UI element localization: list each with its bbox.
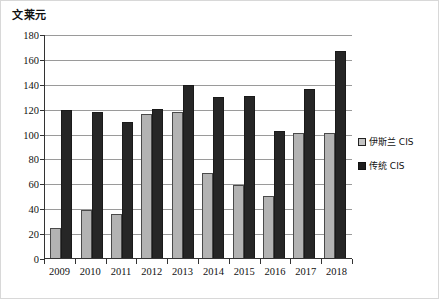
x-tick-mark (321, 259, 322, 264)
y-tick-label: 0 (34, 254, 39, 265)
x-tick-mark (136, 259, 137, 264)
x-tick-label-2016: 2016 (265, 266, 286, 277)
x-tick-label-2012: 2012 (141, 266, 162, 277)
x-tick-mark (44, 259, 45, 264)
legend-item-traditional[interactable]: 传统 CIS (358, 159, 436, 172)
y-tick-label: 100 (23, 129, 39, 140)
legend-item-islamic[interactable]: 伊斯兰 CIS (358, 135, 436, 148)
x-tick-mark (106, 259, 107, 264)
x-tick-label-2015: 2015 (234, 266, 255, 277)
x-tick-label-2010: 2010 (80, 266, 101, 277)
y-tick-label: 40 (29, 204, 40, 215)
y-tick-label: 80 (29, 154, 40, 165)
x-tick-mark (75, 259, 76, 264)
x-tick-label-2009: 2009 (49, 266, 70, 277)
plot-frame (44, 35, 352, 259)
y-tick-label: 180 (23, 30, 39, 41)
x-tick-mark (229, 259, 230, 264)
x-tick-label-2011: 2011 (111, 266, 132, 277)
x-tick-mark (198, 259, 199, 264)
x-tick-label-2014: 2014 (203, 266, 224, 277)
y-axis-title: 文莱元 (12, 9, 47, 22)
y-tick-label: 160 (23, 54, 39, 65)
y-tick-label: 120 (23, 104, 39, 115)
legend-label: 伊斯兰 CIS (369, 135, 414, 148)
x-tick-label-2018: 2018 (326, 266, 347, 277)
x-tick-label-2013: 2013 (172, 266, 193, 277)
x-tick-mark (260, 259, 261, 264)
x-tick-mark (352, 259, 353, 264)
legend-swatch-islamic-icon (358, 138, 366, 146)
chart-legend: 伊斯兰 CIS传统 CIS (358, 135, 436, 183)
y-tick-label: 20 (29, 229, 40, 240)
x-tick-label-2017: 2017 (295, 266, 316, 277)
x-tick-mark (290, 259, 291, 264)
chart-figure: 文莱元 020406080100120140160180 20092010201… (0, 0, 439, 299)
x-tick-mark (167, 259, 168, 264)
y-tick-label: 140 (23, 79, 39, 90)
plot-area: 020406080100120140160180 (44, 35, 352, 259)
legend-swatch-traditional-icon (358, 162, 366, 170)
y-tick-label: 60 (29, 179, 40, 190)
legend-label: 传统 CIS (369, 159, 405, 172)
x-axis: 2009201020112012201320142015201620172018 (44, 259, 352, 287)
